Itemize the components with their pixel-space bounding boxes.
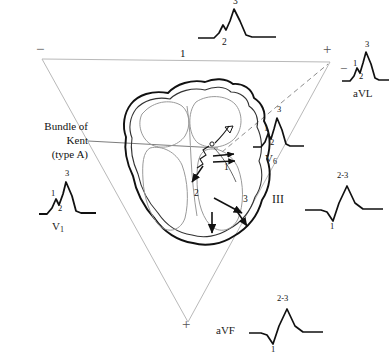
ecg-trace-lead-V1: 3 1 2 V1: [38, 178, 104, 232]
bundle-of-kent-line-2: Kent: [4, 134, 88, 148]
interventricular-septum: [187, 106, 197, 216]
lead-I-axis-label: 1: [180, 48, 186, 59]
ecg-waveform-lead-aVF: [247, 303, 329, 349]
ecg-aVL-lead-label: aVL: [353, 88, 373, 99]
ecg-waveform-lead-I: [196, 5, 280, 47]
ecg-V6-lead-label: V6: [265, 153, 277, 166]
ecg-lead-I-mark-above: 3: [233, 0, 238, 7]
bundle-of-kent-line-3: (type A): [4, 148, 88, 162]
ecg-V1-mark-peak: 3: [65, 169, 69, 178]
vector-3-arrow-lateral: [214, 198, 242, 213]
heart-inner-outline: [130, 87, 262, 237]
heart-vector-3-label: 3: [243, 195, 248, 205]
ecg-waveform-lead-III: [303, 180, 387, 226]
polarity-bottom-positive: +: [182, 317, 190, 332]
ecg-III-mark-peak: 2-3: [337, 171, 348, 180]
heart-outer-outline: [124, 79, 270, 245]
ecg-trace-lead-aVL: 3 1 2 aVL: [341, 47, 391, 97]
ecg-waveform-lead-V6: [252, 113, 312, 155]
ecg-aVL-mark-trough: 2: [359, 72, 363, 81]
polarity-top-left-negative: −: [36, 42, 44, 57]
ecg-V6-lead-subscript: 6: [273, 157, 277, 166]
ecg-V6-lead-letter: V: [265, 152, 273, 164]
ecg-V1-lead-subscript: 1: [60, 225, 64, 234]
bundle-of-kent-annotation: Bundle of Kent (type A): [4, 120, 88, 161]
ecg-V1-mark-trough: 2: [58, 204, 62, 213]
vector-1-arrow-a: [213, 154, 234, 156]
right-ventricle-cavity: [143, 147, 188, 230]
ecg-trace-lead-I: 3 2: [196, 5, 280, 47]
ecg-trace-lead-V6: 3 1 2 V6: [252, 113, 312, 165]
ecg-V6-mark-trough: 2: [270, 138, 274, 147]
ecg-V1-lead-letter: V: [52, 220, 60, 232]
ecg-V6-mark-upstroke: 1: [264, 124, 268, 133]
ecg-V6-mark-peak: 3: [277, 105, 281, 114]
polarity-top-right-positive: +: [323, 42, 331, 57]
figure-canvas: − + + − 1 III Bundle of Kent (type A) 1 …: [0, 0, 391, 362]
ecg-aVL-mark-peak: 3: [365, 40, 369, 49]
ecg-aVF-mark-peak: 2-3: [277, 294, 288, 303]
bundle-of-kent-line-1: Bundle of: [4, 120, 88, 134]
ecg-lead-I-mark-below: 2: [222, 38, 227, 48]
ecg-trace-lead-III: 2-3 1: [303, 180, 387, 232]
ecg-aVL-mark-upstroke: 1: [353, 59, 357, 68]
right-atrium: [140, 102, 189, 147]
ecg-V1-lead-label: V1: [52, 221, 64, 234]
ecg-V1-mark-upstroke: 1: [51, 189, 55, 198]
ecg-aVF-mark-q-wave: 1: [271, 345, 275, 354]
ecg-aVF-lead-label: aVF: [216, 325, 235, 336]
lead-III-axis-label: III: [272, 193, 284, 205]
av-node: [210, 142, 214, 146]
heart-vector-2-label: 2: [194, 189, 199, 199]
left-atrium: [190, 97, 241, 148]
ecg-waveform-lead-aVL: [341, 47, 391, 89]
ecg-trace-lead-aVF: 2-3 1 aVF: [247, 303, 329, 355]
ecg-waveform-lead-V1: [38, 178, 104, 222]
heart-vector-1-label: 1: [224, 163, 229, 173]
ecg-III-mark-q-wave: 1: [330, 222, 334, 231]
